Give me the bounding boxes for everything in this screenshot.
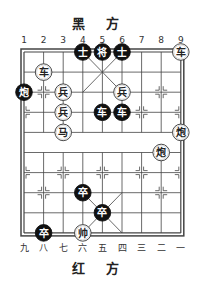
file-label: 一 bbox=[174, 241, 188, 254]
piece-glyph: 炮 bbox=[155, 146, 166, 158]
red-piece[interactable]: 车 bbox=[173, 44, 190, 61]
piece-glyph: 车 bbox=[39, 66, 49, 78]
piece-glyph: 帅 bbox=[78, 227, 88, 239]
red-piece[interactable]: 车 bbox=[35, 64, 52, 81]
file-label: 八 bbox=[37, 241, 51, 254]
piece-glyph: 车 bbox=[97, 106, 107, 118]
file-label: 六 bbox=[76, 241, 90, 254]
bottom-file-numbers: 九八七六五四三二一 bbox=[0, 241, 199, 253]
black-piece[interactable]: 士 bbox=[114, 44, 131, 61]
red-piece[interactable]: 兵 bbox=[55, 104, 72, 121]
piece-glyph: 卒 bbox=[39, 227, 49, 239]
file-label: 七 bbox=[56, 241, 70, 254]
piece-glyph: 车 bbox=[117, 106, 127, 118]
file-label: 三 bbox=[135, 241, 149, 254]
piece-glyph: 马 bbox=[58, 127, 68, 138]
file-label: 二 bbox=[154, 241, 168, 254]
black-piece[interactable]: 车 bbox=[114, 104, 131, 121]
piece-glyph: 士 bbox=[117, 46, 127, 58]
piece-glyph: 车 bbox=[176, 46, 186, 58]
red-side-label: 红 方 bbox=[0, 258, 199, 277]
file-label: 四 bbox=[115, 241, 129, 254]
piece-glyph: 士 bbox=[78, 46, 88, 58]
piece-glyph: 炮 bbox=[175, 126, 186, 138]
piece-glyph: 卒 bbox=[97, 206, 107, 218]
piece-glyph: 卒 bbox=[78, 186, 88, 198]
black-piece[interactable]: 卒 bbox=[94, 205, 111, 222]
piece-glyph: 兵 bbox=[58, 86, 68, 98]
piece-glyph: 兵 bbox=[58, 106, 68, 118]
black-piece[interactable]: 卒 bbox=[75, 184, 92, 201]
red-piece[interactable]: 炮 bbox=[173, 124, 190, 141]
file-label: 九 bbox=[17, 241, 31, 254]
file-label: 五 bbox=[95, 241, 109, 254]
black-piece[interactable]: 车 bbox=[94, 104, 111, 121]
red-piece[interactable]: 兵 bbox=[114, 84, 131, 101]
red-piece[interactable]: 帅 bbox=[75, 225, 92, 242]
piece-glyph: 将 bbox=[97, 46, 107, 58]
black-piece[interactable]: 士 bbox=[75, 44, 92, 61]
red-piece[interactable]: 兵 bbox=[55, 84, 72, 101]
black-piece[interactable]: 炮 bbox=[16, 84, 33, 101]
piece-glyph: 兵 bbox=[117, 86, 127, 98]
red-piece[interactable]: 马 bbox=[55, 124, 72, 141]
black-piece[interactable]: 卒 bbox=[35, 225, 52, 242]
red-piece[interactable]: 炮 bbox=[153, 144, 170, 161]
black-piece[interactable]: 将 bbox=[94, 44, 111, 61]
piece-glyph: 炮 bbox=[18, 86, 29, 98]
